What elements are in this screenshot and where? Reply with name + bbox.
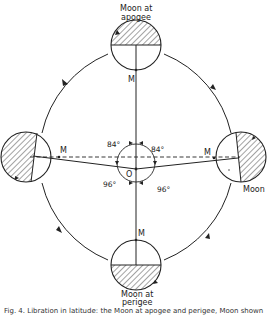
label-apogee-line1: Moon at: [120, 4, 152, 13]
lunar-orbit-diagram: Moon at apogee Moon at perigee Moon M M …: [0, 0, 269, 316]
label-angle-lower-right: 96°: [157, 185, 171, 194]
label-m-left: M: [60, 146, 67, 155]
label-m-top: M: [128, 75, 135, 84]
moon-left: [0, 130, 60, 184]
label-perigee-line2: perigee: [122, 298, 153, 307]
arrow-icon: [205, 233, 210, 239]
figure-caption: Fig. 4. Libration in latitude: the Moon …: [4, 307, 269, 315]
origin-point: [135, 168, 138, 171]
label-m-bottom: M: [138, 229, 145, 238]
label-angle-upper-right: 84°: [151, 145, 165, 154]
arrow-icon: [62, 79, 68, 86]
label-moon-right: Moon: [243, 185, 265, 194]
label-origin: O: [126, 170, 132, 179]
label-angle-lower-left: 96°: [103, 180, 117, 189]
arrow-icon: [56, 226, 62, 233]
line-o-to-right-moon: [136, 158, 238, 169]
label-angle-upper-left: 84°: [107, 140, 121, 149]
label-apogee-line2: apogee: [121, 13, 151, 22]
label-m-right: M: [204, 148, 211, 157]
